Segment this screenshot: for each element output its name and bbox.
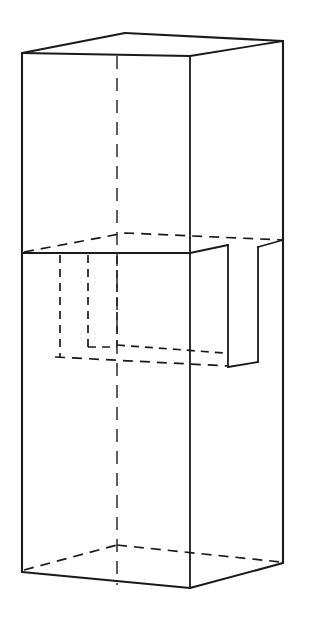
right-face-fill xyxy=(190,41,283,588)
isometric-block-drawing xyxy=(0,0,309,624)
face-fills xyxy=(22,33,283,588)
left-face-fill xyxy=(22,53,190,588)
figure-canvas xyxy=(0,0,309,624)
